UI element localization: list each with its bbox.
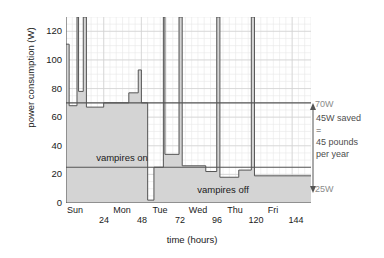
x-tick-day-mon: Mon <box>113 206 131 215</box>
annotation-vampires-off: vampires off <box>197 184 249 195</box>
x-tick-day-thu: Thu <box>227 206 243 215</box>
x-axis-title: time (hours) <box>0 234 384 245</box>
x-tick-hour-24: 24 <box>99 216 109 225</box>
x-tick-hour-72: 72 <box>175 216 185 225</box>
y-tick-20: 20 <box>26 169 62 179</box>
chart-figure: power consumption (W) 0 20 40 60 80 100 … <box>0 0 384 258</box>
y-tick-0: 0 <box>26 198 62 208</box>
savings-callout-text: 45W saved = 45 pounds per year <box>316 112 361 160</box>
x-tick-day-tue: Tue <box>152 206 167 215</box>
y-tick-60: 60 <box>26 112 62 122</box>
y-axis-tick-labels: 0 20 40 60 80 100 120 <box>22 0 62 210</box>
x-tick-hour-96: 96 <box>212 216 222 225</box>
y-tick-40: 40 <box>26 141 62 151</box>
x-tick-day-sun: Sun <box>67 206 83 215</box>
savings-line-4: per year <box>316 148 361 160</box>
y-tick-120: 120 <box>26 26 62 36</box>
savings-line-1: 45W saved <box>316 112 361 124</box>
x-tick-day-wed: Wed <box>189 206 207 215</box>
label-70w: 70W <box>315 99 334 110</box>
x-tick-hour-48: 48 <box>137 216 147 225</box>
annotation-vampires-on: vampires on <box>96 152 148 163</box>
y-tick-80: 80 <box>26 84 62 94</box>
chart-canvas <box>66 17 311 203</box>
x-tick-day-fri: Fri <box>268 206 279 215</box>
savings-line-3: 45 pounds <box>316 136 361 148</box>
x-tick-hour-144: 144 <box>288 216 303 225</box>
x-tick-hour-120: 120 <box>248 216 263 225</box>
plot-area: vampires on vampires off <box>66 17 311 203</box>
savings-line-2: = <box>316 124 361 136</box>
label-25w: 25W <box>315 184 334 195</box>
y-tick-100: 100 <box>26 55 62 65</box>
